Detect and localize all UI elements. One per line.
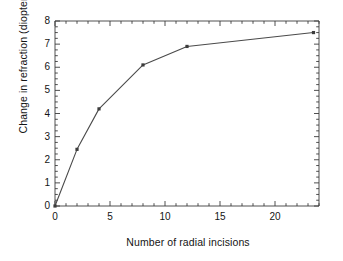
data-point <box>312 31 315 34</box>
plot-frame <box>55 21 319 206</box>
chart-figure: Change in refraction (diopters) Number o… <box>0 0 343 261</box>
data-point <box>185 45 188 48</box>
data-point <box>75 148 78 151</box>
data-line <box>55 33 314 206</box>
axis-ticks <box>55 21 319 206</box>
data-point <box>97 107 100 110</box>
plot-svg <box>0 0 343 261</box>
data-point <box>141 63 144 66</box>
data-point <box>53 204 56 207</box>
data-markers <box>53 31 315 208</box>
